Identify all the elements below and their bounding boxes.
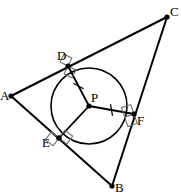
point-e [56, 135, 62, 141]
vertex-labels: A B C D E F P [0, 4, 179, 192]
point-b [109, 183, 114, 188]
tick-mark-pe [70, 118, 78, 126]
geometry-diagram: A B C D E F P [0, 0, 181, 192]
label-c: C [170, 4, 179, 19]
label-f: F [137, 113, 144, 128]
point-f [131, 111, 136, 116]
geometry-canvas: A B C D E F P [0, 0, 181, 192]
segment-ac [11, 17, 167, 96]
point-d [65, 63, 70, 68]
segment-cb [112, 17, 167, 186]
point-c [164, 14, 169, 19]
triangle-sides [11, 17, 167, 186]
label-e: E [42, 135, 50, 150]
label-d: D [57, 48, 66, 63]
label-b: B [115, 180, 124, 192]
segment-ab [11, 96, 112, 186]
label-p: P [91, 90, 98, 105]
label-a: A [0, 88, 10, 103]
point-markers [8, 14, 169, 188]
